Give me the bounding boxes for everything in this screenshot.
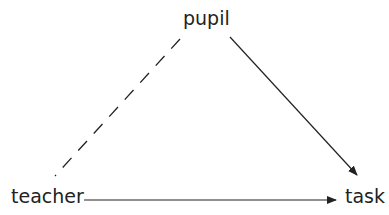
- node-label-task: task: [345, 187, 385, 206]
- edge-pupil-task-arrow: [230, 37, 357, 175]
- node-label-pupil: pupil: [183, 9, 230, 28]
- edge-pupil-teacher-dashed: [55, 39, 180, 176]
- node-label-teacher: teacher: [11, 187, 84, 206]
- edges-layer: [0, 0, 389, 215]
- didactic-triangle-diagram: pupil teacher task: [0, 0, 389, 215]
